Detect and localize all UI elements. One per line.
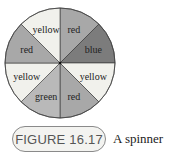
- spinner-wheel: redblueyellowredgreenyellowredyellow: [4, 7, 116, 119]
- figure-number-badge: FIGURE 16.17: [12, 126, 106, 152]
- segment-label: red: [20, 44, 33, 55]
- spinner-center: [59, 62, 62, 65]
- figure-caption: A spinner: [113, 131, 163, 147]
- segment-label: blue: [85, 44, 103, 55]
- segment-label: green: [35, 91, 57, 102]
- segment-label: yellow: [13, 71, 41, 82]
- segment-label: red: [67, 91, 80, 102]
- segment-label: yellow: [80, 71, 108, 82]
- segment-label: yellow: [33, 24, 61, 35]
- segment-label: red: [67, 24, 80, 35]
- figure-number: FIGURE 16.17: [15, 132, 103, 147]
